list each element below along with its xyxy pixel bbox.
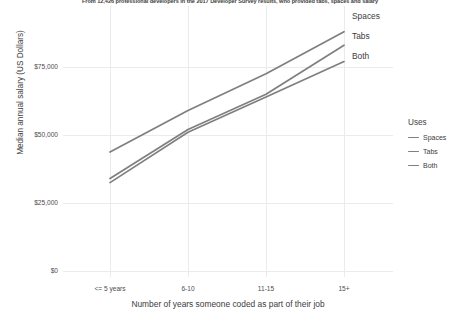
plot-area <box>63 6 393 277</box>
x-tick-label-3: 15+ <box>338 285 349 292</box>
x-tick-label-0: <= 5 years <box>94 285 125 292</box>
y-axis-title: Median annual salary (US Dollars) <box>16 0 25 193</box>
legend-label-tabs: Tabs <box>423 148 438 156</box>
legend-label-spaces: Spaces <box>423 134 446 142</box>
series-end-label-spaces: Spaces <box>352 12 380 21</box>
chart-subtitle: From 12,426 professional developers in t… <box>0 0 460 5</box>
series-end-label-both: Both <box>352 52 369 61</box>
legend-swatch-tabs <box>408 151 419 153</box>
series-lines <box>63 6 393 277</box>
legend-item-both[interactable]: Both <box>408 160 460 171</box>
legend-title: Uses <box>408 118 460 127</box>
y-tick-label-75000: $75,000 <box>34 63 58 71</box>
line-series-spaces <box>110 32 344 152</box>
y-tick-label-25000: $25,000 <box>34 199 58 207</box>
legend: Uses Spaces Tabs Both <box>408 118 460 174</box>
x-tick-label-2: 11-15 <box>258 285 274 292</box>
legend-item-spaces[interactable]: Spaces <box>408 132 460 143</box>
x-tick-label-1: 6-10 <box>181 285 194 292</box>
legend-item-tabs[interactable]: Tabs <box>408 146 460 157</box>
x-axis-title: Number of years someone coded as part of… <box>63 299 393 309</box>
line-series-both <box>110 62 344 183</box>
y-tick-label-0: $0 <box>51 267 58 275</box>
line-series-tabs <box>110 45 344 178</box>
legend-swatch-both <box>408 165 419 167</box>
legend-label-both: Both <box>423 162 437 170</box>
y-tick-label-50000: $50,000 <box>34 131 58 139</box>
y-axis: $0 $25,000 $50,000 $75,000 <box>0 0 58 315</box>
series-end-label-tabs: Tabs <box>352 32 370 41</box>
legend-swatch-spaces <box>408 137 419 139</box>
